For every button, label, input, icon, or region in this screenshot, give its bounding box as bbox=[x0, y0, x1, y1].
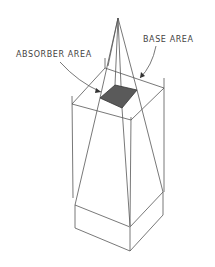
absorber-leader-arrow bbox=[60, 62, 101, 92]
lower-box bbox=[75, 192, 163, 251]
absorber-area bbox=[100, 85, 137, 108]
base-area-label: BASE AREA bbox=[143, 35, 194, 44]
absorber-area-label: ABSORBER AREA bbox=[16, 50, 92, 59]
base-leader-arrow bbox=[140, 46, 156, 78]
absorber-arrowhead-icon bbox=[95, 88, 101, 93]
concentrator-diagram: ABSORBER AREA BASE AREA bbox=[0, 0, 215, 267]
